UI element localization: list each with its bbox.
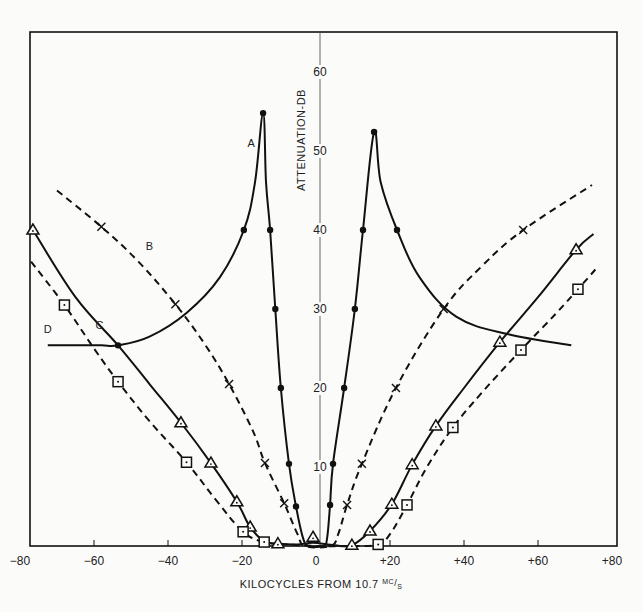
curve-labels: ABCD (44, 137, 256, 335)
marker-dot-icon (286, 461, 292, 467)
marker-triangle-icon (307, 531, 319, 541)
marker-x-icon (97, 223, 105, 231)
marker-square-icon (402, 500, 412, 510)
attenuation-chart: −80−60−40−200+20+40+60+80 102030405060 A… (0, 0, 643, 612)
x-axis-title-sub: S (397, 583, 402, 590)
marker-x-icon (171, 300, 179, 308)
x-tick-label: −60 (84, 554, 105, 568)
y-tick-label: 20 (313, 381, 327, 395)
y-tick-label: 40 (313, 223, 327, 237)
marker-square-icon (516, 345, 526, 355)
y-tick-label: 30 (313, 302, 327, 316)
x-tick-label: −20 (232, 554, 253, 568)
curve-label-c: C (96, 319, 104, 331)
marker-square-icon (182, 457, 192, 467)
marker-dot-icon (394, 227, 400, 233)
curves (31, 113, 595, 548)
marker-dot-icon (360, 227, 366, 233)
marker-x-icon (225, 380, 233, 388)
y-tick-label: 60 (313, 65, 327, 79)
x-tick-label: +40 (454, 554, 475, 568)
curve-b (57, 185, 592, 548)
x-axis-title: KILOCYCLES FROM 10.7 MC/S (240, 578, 403, 590)
marker-square-icon (373, 539, 383, 549)
x-tick-label: −80 (10, 554, 31, 568)
curve-label-d: D (44, 323, 52, 335)
x-axis-title-sup: MC (382, 578, 394, 585)
curve-label-b: B (146, 240, 153, 252)
marker-dot-icon (371, 129, 377, 135)
marker-dot-icon (330, 461, 336, 467)
marker-x-icon (519, 226, 527, 234)
marker-triangle-icon (231, 496, 243, 506)
marker-triangle-icon (406, 459, 418, 469)
y-tick-label: 50 (313, 144, 327, 158)
marker-dot-icon (115, 342, 121, 348)
marker-x-icon (358, 460, 366, 468)
y-tick-label: 10 (313, 460, 327, 474)
marker-dot-icon (293, 503, 299, 509)
marker-triangle-icon (386, 498, 398, 508)
marker-dot-icon (272, 306, 278, 312)
x-tick-label: +20 (380, 554, 401, 568)
marker-square-icon (573, 284, 583, 294)
marker-square-icon (259, 537, 269, 547)
marker-x-icon (280, 499, 288, 507)
marker-square-icon (238, 527, 248, 537)
marker-x-icon (392, 384, 400, 392)
marker-dot-icon (241, 227, 247, 233)
curve-a (48, 113, 572, 547)
x-tick-label: 0 (313, 554, 320, 568)
marker-dot-icon (341, 385, 347, 391)
x-axis-title-main: KILOCYCLES FROM 10.7 (240, 578, 383, 590)
marker-triangle-icon (27, 224, 39, 234)
x-axis-ticks: −80−60−40−200+20+40+60+80 (10, 540, 623, 568)
y-axis-title: ATTENUATION-DB (295, 89, 307, 191)
marker-dot-icon (352, 306, 358, 312)
x-tick-label: +80 (602, 554, 623, 568)
curve-label-a: A (248, 137, 256, 149)
marker-dot-icon (278, 385, 284, 391)
marker-x-icon (261, 459, 269, 467)
x-tick-label: −40 (158, 554, 179, 568)
marker-dot-icon (260, 110, 266, 116)
marker-square-icon (113, 377, 123, 387)
y-axis: 102030405060 (312, 32, 328, 546)
marker-square-icon (448, 423, 458, 433)
marker-dot-icon (327, 502, 333, 508)
marker-dot-icon (267, 227, 273, 233)
marker-triangle-icon (346, 539, 358, 549)
marker-square-icon (59, 300, 69, 310)
x-tick-label: +60 (528, 554, 549, 568)
